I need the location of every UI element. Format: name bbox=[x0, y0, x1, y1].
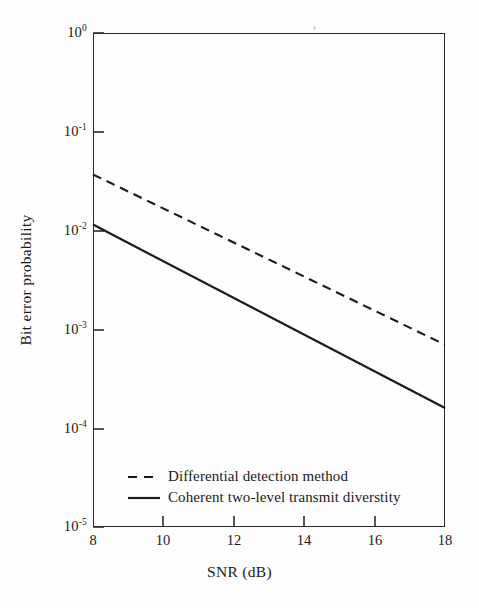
legend-label: Differential detection method bbox=[168, 468, 348, 485]
y-tick-label-1e-2: 10-2 bbox=[42, 223, 87, 238]
x-tick-label-12: 12 bbox=[214, 533, 254, 548]
y-tick-label-1e-4: 10-4 bbox=[42, 421, 87, 436]
legend: Differential detection method Coherent t… bbox=[127, 466, 417, 508]
x-tick-label-16: 16 bbox=[355, 533, 395, 548]
legend-dashed-line-icon bbox=[127, 471, 161, 483]
x-tick-label-10: 10 bbox=[143, 533, 183, 548]
plot-frame bbox=[93, 33, 445, 527]
x-axis-title: SNR (dB) bbox=[0, 563, 479, 581]
legend-item-coherent-two-level-transmit-diversity: Coherent two-level transmit diverstity bbox=[127, 487, 417, 508]
y-tick-label-1e-1: 10-1 bbox=[42, 124, 87, 139]
y-tick-label-1e-3: 10-3 bbox=[42, 322, 87, 337]
x-tick-label-18: 18 bbox=[425, 533, 465, 548]
y-tick-label-1e0: 100 bbox=[42, 25, 87, 40]
x-tick-label-8: 8 bbox=[73, 533, 113, 548]
y-tick-label-1e-5: 10-5 bbox=[42, 519, 87, 534]
x-tick-label-14: 14 bbox=[284, 533, 324, 548]
figure-canvas: 100 10-1 10-2 10-3 10-4 10-5 8 10 12 14 … bbox=[0, 0, 479, 608]
legend-solid-line-icon bbox=[127, 492, 161, 504]
y-axis-title: Bit error probability bbox=[17, 214, 35, 345]
legend-item-differential-detection-method: Differential detection method bbox=[127, 466, 417, 487]
legend-label: Coherent two-level transmit diverstity bbox=[168, 489, 401, 506]
y-axis-title-wrap: Bit error probability bbox=[12, 33, 40, 527]
scan-speck bbox=[313, 26, 316, 30]
